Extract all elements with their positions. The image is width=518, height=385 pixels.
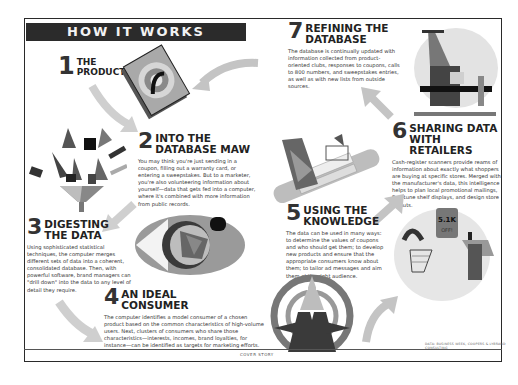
step-number: 3: [27, 218, 42, 237]
banner-title: HOW IT WORKS: [26, 23, 246, 41]
step-2-section: 2 INTO THE DATABASE MAW You may think yo…: [138, 132, 256, 208]
arrow-icon: [55, 298, 105, 346]
step-title: DIGESTING THE DATA: [44, 218, 108, 241]
eye-target-illustration: [128, 205, 248, 285]
step-3-section: 3 DIGESTING THE DATA Using sophisticated…: [27, 218, 131, 294]
target-consumer-illustration: [270, 272, 360, 352]
cash-register-illustration: [400, 18, 500, 118]
handshake-illustration: [262, 120, 382, 205]
step-number: 1: [58, 56, 75, 76]
step-title: INTO THE DATABASE MAW: [155, 132, 250, 155]
step-body: You may think you're just sending in a c…: [138, 158, 256, 208]
arrow-icon: [190, 55, 260, 95]
step-5-section: 5 USING THE KNOWLEDGE The data can be us…: [286, 204, 384, 280]
divider: [24, 349, 502, 350]
data-funnel-illustration: [22, 118, 127, 213]
step-title: SHARING DATA WITH RETAILERS: [409, 122, 502, 156]
step-title: AN IDEAL CONSUMER: [121, 288, 188, 311]
step-number: 7: [288, 22, 303, 41]
arrow-icon: [355, 85, 395, 120]
step-number: 4: [104, 288, 119, 307]
step-number: 5: [286, 204, 301, 223]
step-title: REFINING THE DATABASE: [305, 22, 388, 45]
arrow-icon: [360, 290, 400, 345]
step-number: 2: [138, 132, 153, 151]
svg-text:OFF!: OFF!: [441, 227, 453, 233]
step-4-section: 4 AN IDEAL CONSUMER The computer identif…: [104, 288, 264, 349]
step-body: The computer identifies a model consumer…: [104, 314, 264, 349]
store-illustration: 5.1K OFF!: [392, 200, 502, 305]
step-number: 6: [392, 122, 407, 141]
section-label: COVER STORY: [240, 352, 274, 357]
store-sign-text: 5.1K: [438, 216, 456, 224]
step-title: USING THE KNOWLEDGE: [303, 204, 379, 227]
step-7-section: 7 REFINING THE DATABASE The database is …: [288, 22, 400, 91]
